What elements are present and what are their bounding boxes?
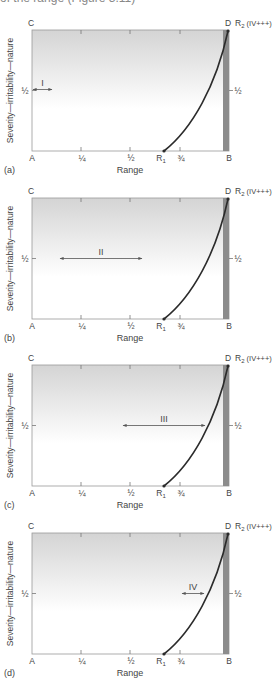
panel-c: IIICDR2 (IV+++)½½A¼½¾BR1(c)RangeSeverity… <box>4 353 272 510</box>
y-axis-label: Severity—irritability—nature <box>5 373 15 479</box>
tick-label: ¼ <box>78 656 86 666</box>
half-label-left: ½ <box>21 254 28 264</box>
corner-d-label: D <box>225 186 231 196</box>
half-label-left: ½ <box>21 421 28 431</box>
y-axis-label: Severity—irritability—nature <box>5 206 15 312</box>
corner-c-label: C <box>28 353 34 363</box>
tick-label: ¾ <box>177 321 185 331</box>
corner-b-label: B <box>226 488 232 498</box>
corner-c-label: C <box>28 521 34 531</box>
d-point <box>226 364 229 367</box>
tick-label: ¼ <box>78 488 86 498</box>
half-label-right: ½ <box>234 421 241 431</box>
tick-label: ¼ <box>78 153 86 163</box>
r2-label: R2 (IV+++) <box>235 18 272 29</box>
r2-label: R2 (IV+++) <box>235 353 272 364</box>
corner-a-label: A <box>29 153 35 163</box>
plot-area <box>32 30 229 151</box>
corner-c-label: C <box>28 186 34 196</box>
r1-label: R1 <box>156 153 166 164</box>
corner-c-label: C <box>28 18 34 28</box>
grade-label: IV <box>189 582 198 592</box>
tick-label: ½ <box>127 656 134 666</box>
r2-label: R2 (IV+++) <box>235 186 272 197</box>
corner-d-label: D <box>225 521 231 531</box>
half-label-left: ½ <box>21 86 28 96</box>
x-axis-label: Range <box>117 333 144 343</box>
corner-b-label: B <box>226 153 232 163</box>
grade-label: II <box>98 247 103 257</box>
corner-a-label: A <box>29 321 35 331</box>
tick-label: ¼ <box>78 321 86 331</box>
panel-b: IICDR2 (IV+++)½½A¼½¾BR1(b)RangeSeverity—… <box>4 186 272 343</box>
r1-point <box>162 317 165 320</box>
y-axis-label: Severity—irritability—nature <box>5 541 15 647</box>
half-label-right: ½ <box>234 86 241 96</box>
corner-a-label: A <box>29 488 35 498</box>
r2-label: R2 (IV+++) <box>235 521 272 532</box>
panel-d: IVCDR2 (IV+++)½½A¼½¾BR1(d)RangeSeverity—… <box>4 521 272 678</box>
tick-label: ¾ <box>177 153 185 163</box>
panel-letter: (b) <box>4 333 15 343</box>
half-label-right: ½ <box>234 589 241 599</box>
r1-point <box>162 484 165 487</box>
panel-letter: (c) <box>4 500 15 510</box>
tick-label: ½ <box>127 488 134 498</box>
r1-point <box>162 652 165 655</box>
tick-label: ½ <box>127 321 134 331</box>
corner-b-label: B <box>226 321 232 331</box>
r1-label: R1 <box>156 656 166 667</box>
x-axis-label: Range <box>117 668 144 678</box>
x-axis-label: Range <box>117 500 144 510</box>
corner-d-label: D <box>225 18 231 28</box>
grade-label: I <box>41 78 44 88</box>
r1-label: R1 <box>156 488 166 499</box>
corner-d-label: D <box>225 353 231 363</box>
y-axis-label: Severity—irritability—nature <box>5 38 15 144</box>
panel-letter: (d) <box>4 668 15 678</box>
corner-b-label: B <box>226 656 232 666</box>
half-label-left: ½ <box>21 589 28 599</box>
grade-label: III <box>160 414 168 424</box>
panel-a: ICDR2 (IV+++)½½A¼½¾BR1(a)RangeSeverity—i… <box>4 18 272 175</box>
tick-label: ¾ <box>177 488 185 498</box>
movement-diagram-figure: ICDR2 (IV+++)½½A¼½¾BR1(a)RangeSeverity—i… <box>0 0 279 684</box>
d-point <box>226 532 229 535</box>
tick-label: ¾ <box>177 656 185 666</box>
corner-a-label: A <box>29 656 35 666</box>
d-point <box>226 197 229 200</box>
half-label-right: ½ <box>234 254 241 264</box>
tick-label: ½ <box>127 153 134 163</box>
d-point <box>226 29 229 32</box>
x-axis-label: Range <box>117 165 144 175</box>
r1-label: R1 <box>156 321 166 332</box>
panel-letter: (a) <box>4 165 15 175</box>
r1-point <box>162 149 165 152</box>
